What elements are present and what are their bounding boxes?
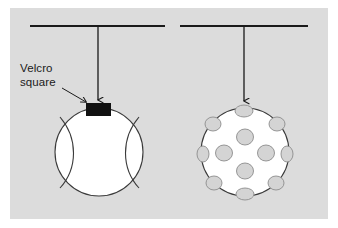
wiffle-hole-4 xyxy=(237,129,254,145)
velcro-label-line-1: Velcro xyxy=(20,62,53,74)
wiffle-hole-9 xyxy=(237,163,254,179)
wiffle-hole-10 xyxy=(206,176,222,190)
velcro-square xyxy=(86,103,111,116)
tennis-ball xyxy=(55,108,143,196)
wiffle-hole-1 xyxy=(235,105,253,117)
wiffle-hole-6 xyxy=(281,146,293,162)
wiffle-hole-5 xyxy=(197,146,209,162)
wiffle-hole-2 xyxy=(205,117,221,131)
wiffle-hole-12 xyxy=(236,188,254,200)
velcro-label-line-2: square xyxy=(20,76,56,88)
wiffle-hole-8 xyxy=(258,145,275,161)
ball-diagram-svg: Velcro square xyxy=(0,0,338,228)
wiffle-hole-11 xyxy=(268,176,284,190)
figure-root: Velcro square xyxy=(0,0,338,228)
wiffle-hole-7 xyxy=(216,145,233,161)
wiffle-hole-3 xyxy=(269,117,285,131)
